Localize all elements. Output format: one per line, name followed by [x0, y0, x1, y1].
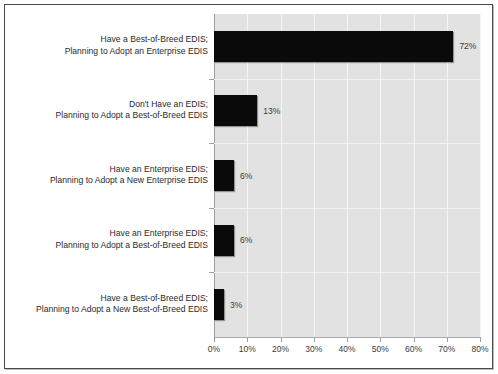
bar-row	[214, 289, 480, 320]
x-axis-tick-label: 60%	[405, 345, 422, 354]
chart-page: 0%10%20%30%40%50%60%70%80%72%Have a Best…	[0, 0, 498, 374]
x-axis-tick	[247, 337, 248, 342]
bar-row	[214, 31, 480, 62]
category-label: Have a Best-of-Breed EDIS; Planning to A…	[8, 34, 208, 57]
bar-row	[214, 160, 480, 191]
category-label: Don't Have an EDIS; Planning to Adopt a …	[8, 99, 208, 122]
bar-row	[214, 95, 480, 126]
bar-data-label: 3%	[230, 301, 242, 310]
bar[interactable]	[214, 289, 224, 320]
x-axis-tick-label: 70%	[438, 345, 455, 354]
x-axis-tick-label: 40%	[338, 345, 355, 354]
x-axis-tick	[214, 337, 215, 342]
bar[interactable]	[214, 160, 234, 191]
bar[interactable]	[214, 31, 453, 62]
category-label: Have an Enterprise EDIS; Planning to Ado…	[8, 228, 208, 251]
category-label: Have an Enterprise EDIS; Planning to Ado…	[8, 164, 208, 187]
x-axis-tick	[414, 337, 415, 342]
x-axis-tick	[347, 337, 348, 342]
gridline-vertical	[480, 14, 481, 337]
x-axis-tick	[380, 337, 381, 342]
gridline-horizontal	[214, 79, 480, 80]
x-axis-tick	[281, 337, 282, 342]
bar[interactable]	[214, 95, 257, 126]
plot-area	[214, 14, 480, 337]
bar[interactable]	[214, 225, 234, 256]
bar-data-label: 13%	[263, 107, 280, 116]
x-axis-tick	[480, 337, 481, 342]
bar-data-label: 6%	[240, 236, 252, 245]
bar-data-label: 72%	[459, 42, 476, 51]
x-axis-tick-label: 50%	[372, 345, 389, 354]
x-axis-tick-label: 80%	[471, 345, 488, 354]
y-axis-tick	[209, 79, 214, 80]
gridline-horizontal	[214, 272, 480, 273]
x-axis-tick-label: 20%	[272, 345, 289, 354]
bar-data-label: 6%	[240, 172, 252, 181]
category-label: Have a Best-of-Breed EDIS; Planning to A…	[8, 293, 208, 316]
x-axis-tick-label: 10%	[239, 345, 256, 354]
x-axis-tick-label: 0%	[208, 345, 220, 354]
x-axis-tick	[314, 337, 315, 342]
y-axis-tick	[209, 208, 214, 209]
y-axis-tick	[209, 143, 214, 144]
y-axis-tick	[209, 272, 214, 273]
x-axis-tick-label: 30%	[305, 345, 322, 354]
x-axis-tick	[447, 337, 448, 342]
bar-row	[214, 225, 480, 256]
gridline-horizontal	[214, 208, 480, 209]
gridline-horizontal	[214, 143, 480, 144]
